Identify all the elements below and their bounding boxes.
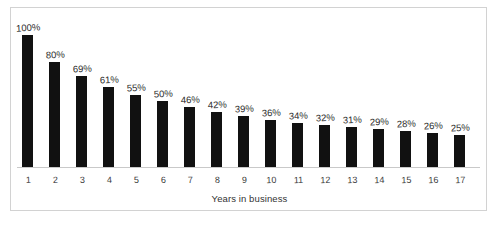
bar-value-label: 61%	[95, 73, 123, 85]
bar[interactable]	[238, 116, 249, 168]
bar[interactable]	[265, 120, 276, 168]
bar[interactable]	[76, 76, 87, 168]
bar[interactable]	[454, 135, 465, 168]
bar-value-label: 32%	[311, 111, 339, 123]
x-tick-label: 6	[150, 175, 177, 186]
x-tick-label: 1	[15, 175, 42, 186]
bar-value-label: 46%	[176, 93, 204, 105]
x-tick-label: 3	[69, 175, 96, 186]
bar[interactable]	[373, 129, 384, 168]
bar-value-label: 36%	[257, 106, 285, 118]
bar-value-label: 29%	[365, 115, 393, 127]
bar[interactable]	[346, 127, 357, 168]
x-tick-label: 4	[96, 175, 123, 186]
x-tick-label: 2	[42, 175, 69, 186]
x-axis-title: Years in business	[11, 193, 488, 204]
bar-value-label: 26%	[419, 119, 447, 131]
bar[interactable]	[157, 101, 168, 168]
bar[interactable]	[103, 87, 114, 168]
x-tick-label: 17	[447, 175, 474, 186]
x-tick-label: 14	[366, 175, 393, 186]
bar-value-label: 55%	[122, 81, 150, 93]
bar-value-label: 69%	[68, 62, 96, 74]
x-tick-label: 8	[204, 175, 231, 186]
bar[interactable]	[130, 95, 141, 168]
bar-value-label: 28%	[392, 117, 420, 129]
bar[interactable]	[319, 125, 330, 168]
bar[interactable]	[49, 62, 60, 168]
x-tick-label: 10	[258, 175, 285, 186]
bar-value-label: 39%	[230, 102, 258, 114]
x-tick-label: 5	[123, 175, 150, 186]
bar[interactable]	[22, 35, 33, 168]
x-tick-label: 9	[231, 175, 258, 186]
x-tick-label: 11	[285, 175, 312, 186]
bar[interactable]	[400, 131, 411, 168]
plot-area: 100% 80% 69% 61% 55% 50%	[11, 8, 488, 212]
x-tick-label: 7	[177, 175, 204, 186]
chart-figure: 100% 80% 69% 61% 55% 50%	[10, 7, 487, 211]
bar-value-label: 50%	[149, 87, 177, 99]
bar[interactable]	[184, 107, 195, 168]
bar-value-label: 25%	[446, 121, 474, 133]
bar-value-label: 42%	[203, 98, 231, 110]
bar[interactable]	[211, 112, 222, 168]
x-tick-label: 13	[339, 175, 366, 186]
bar-value-label: 80%	[41, 48, 69, 60]
bar-value-label: 31%	[338, 113, 366, 125]
x-tick-label: 12	[312, 175, 339, 186]
x-axis-line	[17, 167, 480, 168]
bar[interactable]	[292, 123, 303, 168]
x-tick-label: 16	[420, 175, 447, 186]
bar-value-label: 100%	[10, 21, 46, 34]
bar-value-label: 34%	[284, 109, 312, 121]
bar[interactable]	[427, 133, 438, 168]
x-tick-label: 15	[393, 175, 420, 186]
